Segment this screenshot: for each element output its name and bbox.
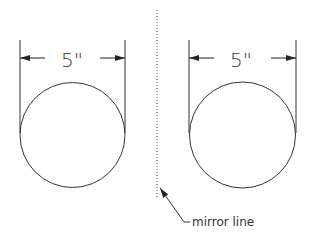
mirror-line-label: mirror line: [192, 215, 254, 229]
left-circle: [20, 83, 125, 188]
left-dimension-label: 5": [61, 48, 83, 72]
right-dimension-label: 5": [230, 48, 252, 72]
leader-line: [160, 188, 190, 222]
right-object: 5": [189, 40, 296, 188]
right-circle: [190, 82, 296, 188]
left-object: 5": [20, 40, 125, 188]
mirror-diagram: 5" 5" mirror line: [0, 0, 315, 241]
mirror-line-callout: mirror line: [160, 188, 254, 229]
